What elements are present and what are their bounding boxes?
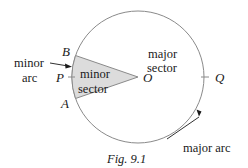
minor-sector-label-line2: sector: [78, 82, 109, 96]
point-p-label: P: [55, 70, 64, 85]
point-b-label: B: [62, 44, 70, 59]
minor-arc-label-line1: minor: [14, 56, 45, 70]
figure-caption: Fig. 9.1: [106, 152, 146, 166]
point-q-label: Q: [215, 70, 225, 85]
point-a-label: A: [60, 96, 69, 111]
minor-arc-label-line2: arc: [22, 71, 38, 85]
major-sector-label-line1: major: [148, 47, 178, 61]
major-arc-label: major arc: [183, 141, 231, 155]
major-sector-label-line2: sector: [147, 61, 178, 75]
labels-layer: B P A O Q minor arc minor sector major s…: [0, 0, 248, 168]
minor-sector-label-line1: minor: [80, 67, 111, 81]
